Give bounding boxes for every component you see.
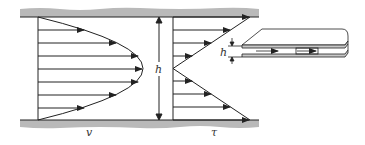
height-label: h (155, 63, 162, 76)
inset-height-label: h (220, 46, 227, 59)
velocity-profile (38, 17, 143, 120)
top-wall (20, 8, 259, 17)
bottom-wall (20, 120, 259, 128)
inset-height-dimension (228, 38, 242, 64)
shear-profile (173, 17, 250, 120)
shear-label: τ (211, 126, 218, 139)
velocity-label: v (86, 126, 93, 139)
flow-diagram: v h τ h (0, 0, 365, 145)
inset-plates (242, 29, 348, 57)
